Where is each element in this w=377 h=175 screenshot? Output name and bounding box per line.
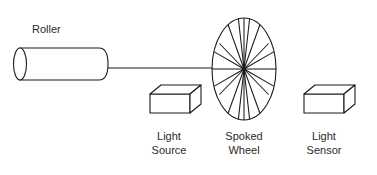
roller-cylinder: [14, 48, 109, 80]
wheel-hub: [242, 67, 246, 71]
light-source-caption: Light Source: [152, 130, 187, 156]
light-sensor-label-line2: Sensor: [307, 144, 342, 156]
light-source-box: [150, 85, 201, 113]
spoked-wheel: [212, 18, 276, 120]
light-source-label-line2: Source: [152, 144, 187, 156]
light-sensor-caption: Light Sensor: [307, 130, 342, 156]
spoked-wheel-label-line1: Spoked: [225, 130, 262, 142]
light-sensor-front-face: [304, 94, 344, 113]
encoder-diagram: Roller: [0, 0, 377, 175]
roller-left-cap-ellipse: [14, 48, 27, 80]
light-sensor-box: [304, 85, 355, 113]
spoked-wheel-label-line2: Wheel: [228, 144, 259, 156]
diagram-canvas: Roller: [0, 0, 377, 175]
light-source-front-face: [150, 94, 190, 113]
light-source-label-line1: Light: [157, 130, 181, 142]
spoked-wheel-caption: Spoked Wheel: [225, 130, 262, 156]
light-sensor-label-line1: Light: [312, 130, 336, 142]
roller-label: Roller: [32, 23, 61, 35]
roller-body-outline: [20, 48, 108, 80]
